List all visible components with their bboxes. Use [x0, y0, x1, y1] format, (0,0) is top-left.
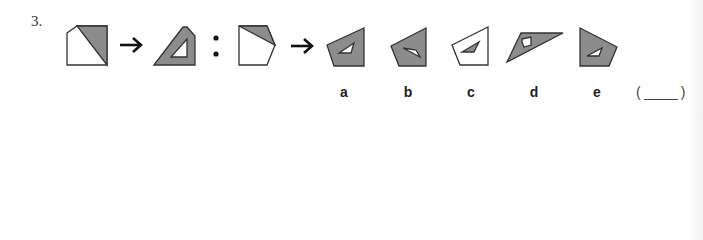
option-label-c[interactable]: c — [467, 84, 475, 100]
answer-close-paren: ) — [681, 84, 686, 100]
answer-open-paren: ( — [636, 84, 641, 100]
analogy-figures — [0, 0, 703, 119]
option-e-figure[interactable] — [580, 28, 617, 66]
arrow-right-icon — [291, 39, 312, 53]
answer-line[interactable] — [644, 85, 678, 100]
option-label-e[interactable]: e — [593, 84, 601, 100]
option-label-d[interactable]: d — [530, 84, 539, 100]
option-label-a[interactable]: a — [340, 84, 348, 100]
figure-2 — [154, 27, 195, 65]
colon-separator-icon — [213, 35, 218, 56]
answer-blank[interactable]: () — [636, 84, 685, 100]
option-label-b[interactable]: b — [404, 84, 413, 100]
figure-3 — [239, 26, 275, 65]
option-a-figure[interactable] — [327, 28, 364, 66]
arrow-right-icon — [120, 38, 141, 52]
option-b-figure[interactable] — [391, 28, 426, 66]
option-d-figure[interactable] — [507, 33, 563, 62]
figure-1 — [67, 26, 107, 65]
option-c-figure[interactable] — [452, 27, 488, 65]
